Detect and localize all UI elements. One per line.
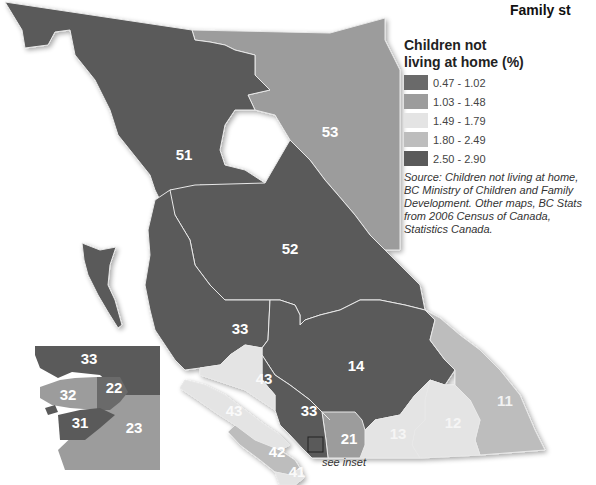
legend-row: 0.47 - 1.02	[404, 73, 594, 92]
label-51: 51	[176, 146, 193, 163]
legend-row: 1.80 - 2.49	[404, 130, 594, 149]
legend-title-line1: Children not	[404, 37, 594, 54]
label-33-south: 33	[301, 402, 318, 419]
legend: Children not living at home (%) 0.47 - 1…	[404, 37, 594, 236]
label-12: 12	[445, 414, 462, 431]
inset-label-33: 33	[81, 350, 98, 367]
legend-swatch	[404, 94, 428, 109]
legend-title-line2: living at home (%)	[404, 54, 594, 71]
label-13: 13	[390, 425, 407, 442]
label-41: 41	[289, 463, 306, 480]
inset-label-31: 31	[72, 414, 89, 431]
label-42: 42	[269, 443, 286, 460]
legend-label: 2.50 - 2.90	[433, 153, 486, 165]
label-43-mainland: 43	[256, 370, 273, 387]
legend-swatch	[404, 113, 428, 128]
label-52: 52	[282, 240, 299, 257]
label-11: 11	[497, 392, 513, 409]
source-note: Source: Children not living at home, BC …	[404, 171, 592, 236]
legend-row: 1.03 - 1.48	[404, 92, 594, 111]
legend-swatch	[404, 151, 428, 166]
label-53: 53	[322, 123, 339, 140]
legend-row: 2.50 - 2.90	[404, 149, 594, 168]
label-43-island: 43	[226, 402, 243, 419]
inset-island	[45, 405, 58, 415]
label-33-coast: 33	[232, 320, 249, 337]
inset-label-22: 22	[106, 379, 123, 396]
legend-label: 1.03 - 1.48	[433, 96, 486, 108]
legend-label: 0.47 - 1.02	[433, 77, 486, 89]
legend-label: 1.80 - 2.49	[433, 134, 486, 146]
label-21: 21	[341, 430, 358, 447]
legend-row: 1.49 - 1.79	[404, 111, 594, 130]
inset-label-23: 23	[126, 419, 143, 436]
label-14: 14	[348, 357, 365, 374]
haida-gwaii	[82, 243, 122, 328]
legend-swatch	[404, 75, 428, 90]
inset-map	[35, 346, 160, 470]
see-inset-note: see inset	[322, 456, 366, 468]
legend-label: 1.49 - 1.79	[433, 115, 486, 127]
legend-swatch	[404, 132, 428, 147]
inset-label-32: 32	[60, 386, 77, 403]
